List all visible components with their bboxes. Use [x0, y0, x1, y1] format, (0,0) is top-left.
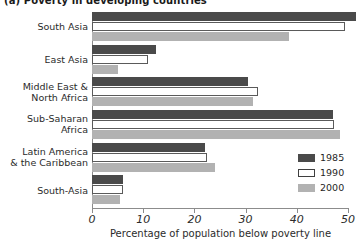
category-label: Sub-SaharanAfrica — [27, 113, 88, 135]
bar-1985 — [92, 45, 156, 54]
bar-1985 — [92, 12, 356, 21]
legend-swatch — [298, 154, 315, 162]
bar-2000 — [92, 195, 120, 204]
legend-swatch — [298, 184, 315, 192]
category-label-line: & the Caribbean — [10, 157, 88, 168]
x-tick-label: 20 — [187, 213, 201, 226]
legend-item: 2000 — [298, 181, 344, 194]
x-tick-label: 30 — [239, 213, 253, 226]
category-label: South-Asia — [37, 184, 88, 195]
bar-1990 — [92, 120, 334, 129]
bar-1985 — [92, 110, 333, 119]
bar-2000 — [92, 97, 253, 106]
x-tick-label: 0 — [89, 213, 96, 226]
category-label-line: Latin America — [10, 146, 88, 157]
x-axis-title: Percentage of population below poverty l… — [92, 228, 349, 239]
legend-item: 1990 — [298, 166, 344, 179]
bar-2000 — [92, 65, 118, 74]
bar-group: South Asia — [92, 12, 348, 41]
category-label: South Asia — [37, 21, 88, 32]
bar-group: Middle East &North Africa — [92, 77, 348, 106]
bar-1990 — [92, 55, 148, 64]
category-label-line: South-Asia — [37, 184, 88, 195]
x-axis-line — [92, 208, 349, 209]
bar-1985 — [92, 175, 123, 184]
category-label: Middle East &North Africa — [23, 81, 88, 103]
x-tick-label: 10 — [136, 213, 150, 226]
chart-title: (a) Poverty in developing countries — [4, 0, 207, 6]
category-label-line: Middle East & — [23, 81, 88, 92]
legend-label: 2000 — [320, 182, 344, 193]
category-label: Latin America& the Caribbean — [10, 146, 88, 168]
category-label-line: Africa — [27, 124, 88, 135]
bar-1985 — [92, 77, 248, 86]
bar-group: East Asia — [92, 45, 348, 74]
bar-1990 — [92, 153, 207, 162]
x-tick-label: 40 — [290, 213, 304, 226]
legend-item: 1985 — [298, 151, 344, 164]
chart-legend: 198519902000 — [298, 151, 344, 196]
category-label-line: East Asia — [45, 54, 88, 65]
bar-1985 — [92, 143, 205, 152]
legend-label: 1990 — [320, 167, 344, 178]
legend-label: 1985 — [320, 152, 344, 163]
category-label-line: South Asia — [37, 21, 88, 32]
bar-1990 — [92, 87, 258, 96]
category-label-line: Sub-Saharan — [27, 113, 88, 124]
legend-swatch — [298, 169, 315, 177]
bar-1990 — [92, 185, 123, 194]
category-label: East Asia — [45, 54, 88, 65]
x-tick-label: 50 — [341, 213, 355, 226]
bar-group: Sub-SaharanAfrica — [92, 110, 348, 139]
category-label-line: North Africa — [23, 92, 88, 103]
bar-2000 — [92, 163, 215, 172]
bar-1990 — [92, 22, 345, 31]
bar-2000 — [92, 130, 340, 139]
bar-2000 — [92, 32, 289, 41]
